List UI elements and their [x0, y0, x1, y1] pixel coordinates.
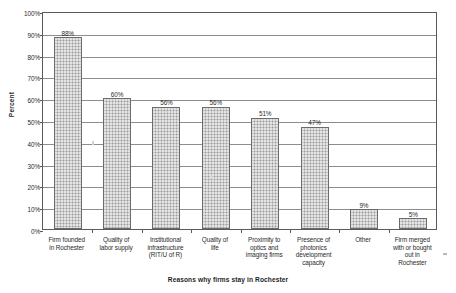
bar-slot: 9% — [339, 13, 388, 229]
scan-artifact — [443, 253, 447, 255]
y-tick-label: 40% — [28, 140, 41, 147]
y-tick-label: 60% — [28, 97, 41, 104]
y-tick-label: 90% — [28, 31, 41, 38]
bar-value-label: 56% — [160, 99, 173, 106]
bar[interactable]: 60% — [103, 98, 131, 229]
bar[interactable]: 56% — [152, 107, 180, 229]
bars-layer: 88%60%56%56%51%47%9%5% — [43, 13, 436, 229]
bar-value-label: 5% — [409, 211, 418, 218]
y-tick-label: 20% — [28, 184, 41, 191]
bar-slot: 56% — [142, 13, 191, 229]
bar-value-label: 9% — [359, 202, 368, 209]
bar[interactable]: 88% — [54, 37, 82, 229]
x-axis-title: Reasons why firms stay in Rochester — [0, 276, 456, 283]
y-tick-label: 0% — [31, 228, 40, 235]
bar-value-label: 51% — [259, 110, 272, 117]
bar-value-label: 56% — [210, 99, 223, 106]
bar[interactable]: 51% — [251, 118, 279, 229]
y-tick-label: 50% — [28, 119, 41, 126]
x-tick-mark — [241, 229, 242, 233]
bar[interactable]: 5% — [399, 218, 427, 229]
category-label-line: (RIT/U of R) — [137, 251, 194, 259]
bar-slot: 56% — [191, 13, 240, 229]
y-axis-title: Percent — [8, 75, 15, 135]
category-label: Firm mergedwith or boughtout inRochester — [384, 236, 441, 266]
bar-slot: 47% — [290, 13, 339, 229]
category-label-line: Rochester — [384, 259, 441, 267]
category-label-line: out in — [384, 251, 441, 259]
y-tick-label: 70% — [28, 75, 41, 82]
bar-value-label: 47% — [308, 119, 321, 126]
y-tick-label: 100% — [24, 10, 40, 17]
y-tick-label: 10% — [28, 206, 41, 213]
bar-slot: 60% — [92, 13, 141, 229]
x-tick-mark — [389, 229, 390, 233]
y-tick-mark — [40, 231, 43, 232]
plot-area: 0%10%20%30%40%50%60%70%80%90%100% 88%60%… — [42, 12, 437, 230]
category-label-line: photonics — [285, 244, 342, 252]
category-label-line: Firm merged — [384, 236, 441, 244]
bar[interactable]: 47% — [301, 127, 329, 229]
x-tick-mark — [191, 229, 192, 233]
category-label-line: development — [285, 251, 342, 259]
x-tick-mark — [142, 229, 143, 233]
scan-artifact — [210, 175, 212, 178]
scan-artifact — [92, 141, 94, 145]
category-label-line: capacity — [285, 259, 342, 267]
y-tick-label: 80% — [28, 53, 41, 60]
category-label-line: with or bought — [384, 244, 441, 252]
bar[interactable]: 9% — [350, 209, 378, 229]
x-tick-mark — [290, 229, 291, 233]
bar-slot: 51% — [241, 13, 290, 229]
x-tick-mark — [339, 229, 340, 233]
bar-value-label: 60% — [111, 91, 124, 98]
bar-slot: 88% — [43, 13, 92, 229]
bar-slot: 5% — [389, 13, 438, 229]
bar[interactable]: 56% — [202, 107, 230, 229]
bar-value-label: 88% — [61, 30, 74, 37]
x-tick-mark — [92, 229, 93, 233]
bar-chart: Percent 0%10%20%30%40%50%60%70%80%90%100… — [0, 0, 456, 293]
y-tick-label: 30% — [28, 162, 41, 169]
